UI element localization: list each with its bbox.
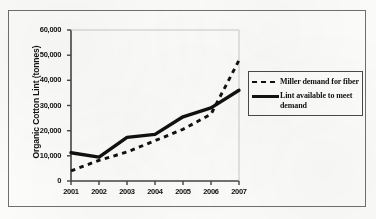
solid-line-icon bbox=[251, 91, 279, 102]
legend-item-miller-demand: Miller demand for fiber bbox=[251, 77, 359, 88]
x-tick-label: 2005 bbox=[170, 187, 196, 196]
y-tick-label: 30,000 bbox=[27, 101, 61, 110]
x-tick-label: 2004 bbox=[142, 187, 168, 196]
y-tick-label: 0 bbox=[27, 176, 61, 185]
chart-frame: Organic Cotton Lint (tonnes) bbox=[8, 10, 366, 207]
y-tick-label: 50,000 bbox=[27, 50, 61, 59]
y-tick-label: 20,000 bbox=[27, 126, 61, 135]
chart-figure: Organic Cotton Lint (tonnes) bbox=[0, 0, 376, 219]
chart-legend: Miller demand for fiber Lint available t… bbox=[248, 71, 363, 116]
y-tick-label: 60,000 bbox=[27, 25, 61, 34]
legend-item-label: Lint available to meet demand bbox=[280, 91, 359, 110]
y-tick-label: 10,000 bbox=[27, 151, 61, 160]
x-tick-label: 2007 bbox=[226, 187, 252, 196]
legend-item-lint-available: Lint available to meet demand bbox=[251, 91, 359, 110]
series-miller-demand-line bbox=[71, 60, 239, 171]
x-tick-label: 2003 bbox=[114, 187, 140, 196]
legend-item-label: Miller demand for fiber bbox=[280, 77, 359, 87]
dashed-line-icon bbox=[251, 77, 279, 88]
series-lint-available-line bbox=[71, 90, 239, 157]
x-tick-label: 2006 bbox=[198, 187, 224, 196]
x-tick-label: 2001 bbox=[58, 187, 84, 196]
y-tick-label: 40,000 bbox=[27, 75, 61, 84]
x-tick-label: 2002 bbox=[86, 187, 112, 196]
